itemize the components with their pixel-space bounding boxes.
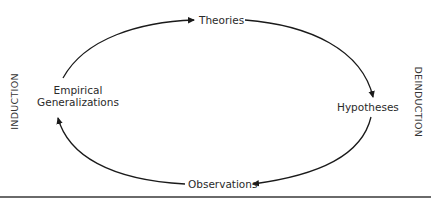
bottom-divider xyxy=(0,196,431,198)
node-hypotheses: Hypotheses xyxy=(337,101,399,113)
arrow-generalizations-to-theories xyxy=(63,20,194,78)
arrow-hypotheses-to-observations xyxy=(253,117,371,184)
node-empirical-generalizations: Empirical Generalizations xyxy=(28,84,128,108)
side-label-induction: INDUCTION xyxy=(9,72,20,132)
node-theories: Theories xyxy=(199,14,244,26)
arrow-observations-to-generalizations xyxy=(58,118,185,184)
side-label-deinduction: DEINDUCTION xyxy=(413,67,424,137)
node-generalizations-line2: Generalizations xyxy=(28,96,128,108)
node-generalizations-line1: Empirical xyxy=(28,84,128,96)
arrow-theories-to-hypotheses xyxy=(245,20,373,97)
node-observations: Observations xyxy=(188,178,257,190)
